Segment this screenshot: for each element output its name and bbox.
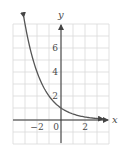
y-axis-label: y xyxy=(57,9,64,20)
x-tick-label: 2 xyxy=(82,122,88,132)
x-axis-label: x xyxy=(112,114,118,125)
exponential-chart: −202246xy xyxy=(0,0,122,152)
y-tick-label: 2 xyxy=(52,91,58,101)
y-tick-label: 4 xyxy=(52,67,58,77)
y-tick-label: 6 xyxy=(52,43,58,53)
exponential-curve xyxy=(24,17,103,119)
curve xyxy=(24,17,103,119)
labels: −202246xy xyxy=(30,9,118,132)
x-tick-label: −2 xyxy=(30,122,43,132)
x-tick-label: 0 xyxy=(53,122,59,132)
